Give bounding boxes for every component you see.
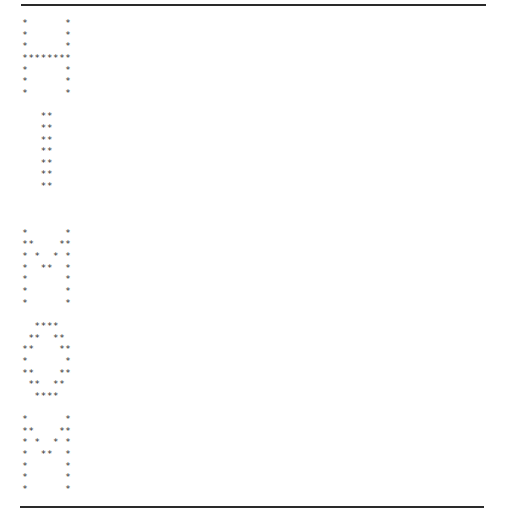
asterisk-glyph: * — [34, 52, 40, 64]
asterisk-glyph: * — [59, 367, 65, 379]
asterisk-glyph: * — [40, 52, 46, 64]
asterisk-glyph: * — [53, 320, 59, 332]
asterisk-glyph: * — [65, 262, 71, 274]
asterisk-glyph: * — [22, 460, 28, 472]
asterisk-glyph: * — [22, 40, 28, 52]
asterisk-glyph: * — [65, 64, 71, 76]
asterisk-glyph: * — [28, 367, 34, 379]
asterisk-glyph: * — [47, 157, 53, 169]
asterisk-glyph: * — [65, 273, 71, 285]
asterisk-glyph: * — [34, 390, 40, 402]
top-rule — [21, 4, 486, 6]
asterisk-glyph: * — [22, 471, 28, 483]
asterisk-glyph: * — [22, 75, 28, 87]
asterisk-glyph: * — [40, 448, 46, 460]
asterisk-glyph: * — [65, 343, 71, 355]
asterisk-glyph: * — [53, 52, 59, 64]
asterisk-glyph: * — [22, 227, 28, 239]
asterisk-glyph: * — [34, 320, 40, 332]
asterisk-glyph: * — [65, 413, 71, 425]
asterisk-glyph: * — [65, 17, 71, 29]
asterisk-glyph: * — [47, 180, 53, 192]
asterisk-glyph: * — [22, 250, 28, 262]
asterisk-glyph: * — [22, 238, 28, 250]
asterisk-glyph: * — [53, 250, 59, 262]
asterisk-glyph: * — [47, 320, 53, 332]
asterisk-glyph: * — [22, 64, 28, 76]
asterisk-glyph: * — [65, 297, 71, 309]
asterisk-glyph: * — [65, 471, 71, 483]
asterisk-glyph: * — [65, 29, 71, 41]
asterisk-glyph: * — [28, 52, 34, 64]
asterisk-glyph: * — [65, 460, 71, 472]
asterisk-glyph: * — [59, 378, 65, 390]
asterisk-glyph: * — [65, 483, 71, 495]
asterisk-glyph: * — [65, 367, 71, 379]
asterisk-glyph: * — [22, 285, 28, 297]
asterisk-glyph: * — [65, 436, 71, 448]
asterisk-glyph: * — [47, 122, 53, 134]
asterisk-glyph: * — [53, 332, 59, 344]
asterisk-glyph: * — [22, 262, 28, 274]
asterisk-glyph: * — [47, 390, 53, 402]
asterisk-glyph: * — [22, 29, 28, 41]
asterisk-glyph: * — [40, 320, 46, 332]
asterisk-glyph: * — [47, 134, 53, 146]
asterisk-glyph: * — [59, 238, 65, 250]
asterisk-glyph: * — [22, 343, 28, 355]
asterisk-glyph: * — [22, 273, 28, 285]
asterisk-glyph: * — [22, 436, 28, 448]
asterisk-glyph: * — [53, 390, 59, 402]
asterisk-glyph: * — [65, 448, 71, 460]
asterisk-glyph: * — [40, 390, 46, 402]
asterisk-glyph: * — [22, 52, 28, 64]
asterisk-glyph: * — [22, 425, 28, 437]
asterisk-glyph: * — [65, 285, 71, 297]
asterisk-glyph: * — [65, 238, 71, 250]
asterisk-glyph: * — [28, 378, 34, 390]
asterisk-glyph: * — [47, 262, 53, 274]
asterisk-glyph: * — [34, 332, 40, 344]
asterisk-glyph: * — [28, 332, 34, 344]
asterisk-glyph: * — [28, 238, 34, 250]
asterisk-glyph: * — [59, 332, 65, 344]
asterisk-glyph: * — [22, 17, 28, 29]
asterisk-glyph: * — [40, 157, 46, 169]
asterisk-glyph: * — [65, 87, 71, 99]
asterisk-glyph: * — [59, 343, 65, 355]
asterisk-glyph: * — [40, 110, 46, 122]
bottom-rule — [20, 506, 484, 508]
asterisk-glyph: * — [40, 122, 46, 134]
asterisk-glyph: * — [34, 436, 40, 448]
asterisk-glyph: * — [22, 448, 28, 460]
asterisk-glyph: * — [40, 145, 46, 157]
asterisk-glyph: * — [47, 52, 53, 64]
asterisk-glyph: * — [22, 297, 28, 309]
asterisk-glyph: * — [22, 87, 28, 99]
asterisk-glyph: * — [40, 262, 46, 274]
asterisk-glyph: * — [47, 168, 53, 180]
asterisk-glyph: * — [22, 413, 28, 425]
asterisk-glyph: * — [53, 378, 59, 390]
asterisk-glyph: * — [40, 134, 46, 146]
asterisk-glyph: * — [28, 425, 34, 437]
asterisk-glyph: * — [40, 168, 46, 180]
asterisk-glyph: * — [65, 227, 71, 239]
asterisk-glyph: * — [65, 40, 71, 52]
asterisk-glyph: * — [65, 75, 71, 87]
asterisk-glyph: * — [28, 343, 34, 355]
asterisk-glyph: * — [47, 448, 53, 460]
asterisk-glyph: * — [65, 250, 71, 262]
asterisk-glyph: * — [65, 355, 71, 367]
asterisk-glyph: * — [53, 436, 59, 448]
asterisk-glyph: * — [47, 110, 53, 122]
asterisk-glyph: * — [22, 355, 28, 367]
asterisk-glyph: * — [34, 250, 40, 262]
asterisk-glyph: * — [59, 425, 65, 437]
asterisk-glyph: * — [65, 52, 71, 64]
asterisk-glyph: * — [47, 145, 53, 157]
asterisk-glyph: * — [59, 52, 65, 64]
asterisk-glyph: * — [22, 367, 28, 379]
asterisk-glyph: * — [65, 425, 71, 437]
asterisk-glyph: * — [34, 378, 40, 390]
